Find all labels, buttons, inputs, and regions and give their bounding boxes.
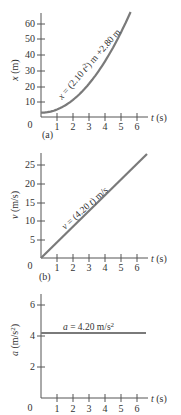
y-axis-label: x (m) bbox=[9, 59, 21, 81]
x-tick-label: 3 bbox=[87, 262, 92, 273]
y-tick-label: 20 bbox=[25, 178, 35, 189]
x-axis-label: t (s) bbox=[151, 253, 167, 265]
y-tick-label: 6 bbox=[30, 299, 35, 310]
y-axis-label: v (m/s) bbox=[9, 191, 21, 219]
y-tick-label: 5 bbox=[30, 234, 35, 245]
y-tick-label: 2 bbox=[30, 361, 35, 372]
velocity-equation: v = (4.20 t) m/s bbox=[60, 185, 111, 232]
x-tick-label: 4 bbox=[103, 121, 108, 132]
origin-label: 0 bbox=[28, 402, 33, 413]
x-tick-label: 3 bbox=[87, 121, 92, 132]
x-tick-label: 5 bbox=[119, 403, 124, 414]
panel-label-b: (b) bbox=[39, 271, 51, 283]
x-tick-label: 6 bbox=[135, 262, 140, 273]
x-tick-label: 1 bbox=[55, 121, 60, 132]
y-tick-label: 60 bbox=[25, 18, 35, 29]
x-axis-label: t (s) bbox=[151, 393, 167, 405]
y-tick-label: 4 bbox=[30, 330, 35, 341]
x-ticks: 1 2 3 4 5 6 bbox=[55, 113, 140, 132]
chart-acceleration: 2 4 6 1 2 3 4 5 6 0 t (s) a (m/s2) a = 4… bbox=[9, 294, 167, 414]
y-tick-label: 10 bbox=[25, 96, 35, 107]
y-tick-label: 25 bbox=[25, 159, 35, 170]
y-ticks: 5 10 15 20 25 bbox=[25, 159, 45, 245]
y-axis-label: a (m/s2) bbox=[9, 324, 21, 356]
origin-label: 0 bbox=[28, 260, 33, 271]
y-ticks: 10 20 30 40 50 60 bbox=[25, 18, 45, 107]
position-equation: x = (2.10 t2) m +2.80 m bbox=[55, 26, 124, 103]
x-tick-label: 5 bbox=[119, 262, 124, 273]
x-ticks: 1 2 3 4 5 6 bbox=[55, 394, 140, 414]
kinematics-figure: 10 20 30 40 50 60 1 2 3 4 5 6 0 t (s) x … bbox=[0, 0, 181, 415]
x-tick-label: 2 bbox=[71, 121, 76, 132]
x-tick-label: 6 bbox=[135, 121, 140, 132]
x-tick-label: 6 bbox=[135, 403, 140, 414]
x-tick-label: 4 bbox=[103, 403, 108, 414]
y-tick-label: 10 bbox=[25, 215, 35, 226]
y-tick-label: 30 bbox=[25, 65, 35, 76]
x-tick-label: 3 bbox=[87, 403, 92, 414]
x-tick-label: 4 bbox=[103, 262, 108, 273]
acceleration-equation: a = 4.20 m/s2 bbox=[63, 321, 115, 332]
x-tick-label: 1 bbox=[55, 403, 60, 414]
x-ticks: 1 2 3 4 5 6 bbox=[55, 254, 140, 273]
origin-label: 0 bbox=[28, 119, 33, 130]
x-tick-label: 2 bbox=[71, 262, 76, 273]
panel-label-a: (a) bbox=[42, 129, 53, 141]
chart-position: 10 20 30 40 50 60 1 2 3 4 5 6 0 t (s) x … bbox=[9, 12, 167, 141]
y-tick-label: 20 bbox=[25, 81, 35, 92]
y-tick-label: 50 bbox=[25, 33, 35, 44]
x-tick-label: 1 bbox=[55, 262, 60, 273]
x-axis-label: t (s) bbox=[151, 112, 167, 124]
y-tick-label: 15 bbox=[25, 197, 35, 208]
y-ticks: 2 4 6 bbox=[30, 299, 45, 372]
x-tick-label: 2 bbox=[71, 403, 76, 414]
chart-velocity: 5 10 15 20 25 1 2 3 4 5 6 0 t (s) v (m/s… bbox=[9, 153, 167, 283]
x-tick-label: 5 bbox=[119, 121, 124, 132]
y-tick-label: 40 bbox=[25, 49, 35, 60]
